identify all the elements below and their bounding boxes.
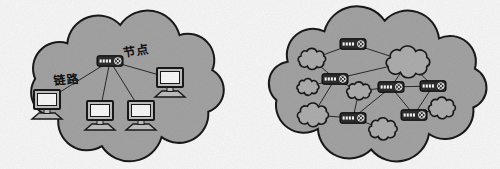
network-diagram-figure: 节点 链路 xyxy=(0,0,500,169)
scan-grain-overlay xyxy=(0,0,500,169)
diagram-canvas: 节点 链路 xyxy=(0,0,500,169)
